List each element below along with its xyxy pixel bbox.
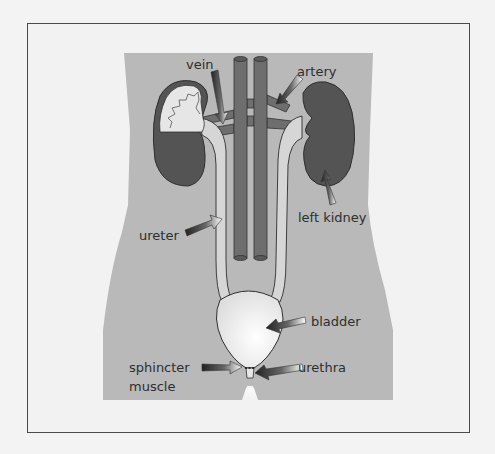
label-sphincter-line2: muscle: [129, 379, 175, 394]
urinary-system-diagram: vein artery left kidney ureter bladder s…: [0, 0, 495, 454]
label-artery: artery: [297, 64, 337, 79]
label-sphincter-line1: sphincter: [129, 360, 190, 375]
label-bladder: bladder: [311, 314, 361, 329]
aorta: [254, 57, 267, 261]
vena-cava: [234, 57, 247, 261]
label-left-kidney: left kidney: [298, 210, 367, 225]
label-ureter: ureter: [139, 228, 179, 243]
left-kidney: [303, 82, 355, 186]
urethra: [246, 368, 254, 378]
label-vein: vein: [186, 57, 214, 72]
label-urethra: urethra: [298, 360, 346, 375]
right-kidney: [153, 81, 207, 186]
